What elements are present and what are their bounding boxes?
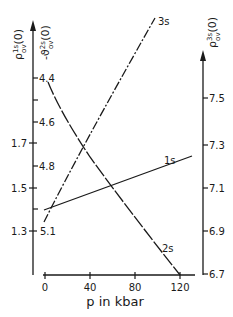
svg-text:1.5: 1.5 [11,183,27,194]
svg-text:120: 120 [170,282,189,293]
svg-text:6.7: 6.7 [209,269,225,280]
curve-2s-label: 2s [162,243,174,254]
svg-text:7.1: 7.1 [209,183,225,194]
left-inner-ticks: 4.4 4.6 4.8 5.1 [33,73,56,237]
left-inner-axis-title: -ϑ2sov(0) [39,25,55,60]
left-outer-axis-title: ρ1sov(0) [12,29,28,60]
chart: ρ1sov(0) -ϑ2sov(0) 1.7 1.5 1.3 4.4 4.6 4… [0,0,233,317]
x-axis-title: p in kbar [86,294,144,309]
svg-text:5.1: 5.1 [40,226,56,237]
svg-text:0: 0 [42,282,48,293]
svg-text:4.4: 4.4 [39,73,55,84]
svg-text:7.3: 7.3 [209,140,225,151]
svg-text:40: 40 [84,282,97,293]
svg-text:ρ1sov(0): ρ1sov(0) [12,29,28,60]
svg-text:4.8: 4.8 [39,161,55,172]
curve-3s-label: 3s [158,16,170,27]
curve-1s-label: 1s [164,155,176,166]
curve-2s [48,82,180,275]
right-axis-title: ρ3sov(0) [206,17,222,48]
svg-text:1.7: 1.7 [11,138,27,149]
svg-text:4.6: 4.6 [39,117,55,128]
svg-text:80: 80 [129,282,142,293]
left-axis-arrow-icon [30,20,36,31]
curve-3s [44,18,155,222]
svg-text:6.9: 6.9 [209,226,225,237]
svg-text:ρ3sov(0): ρ3sov(0) [206,17,222,48]
right-axis-ticks: 7.5 7.3 7.1 6.9 6.7 [203,93,225,280]
svg-text:1.3: 1.3 [11,226,27,237]
svg-text:7.5: 7.5 [209,93,225,104]
svg-text:-ϑ2sov(0): -ϑ2sov(0) [39,25,55,60]
right-axis-arrow-icon [200,50,206,61]
